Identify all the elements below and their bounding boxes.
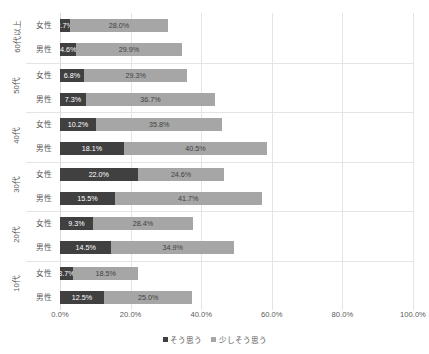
x-axis-tick-label: 20.0% [120,310,142,319]
legend-item[interactable]: そう思う [163,334,203,345]
x-axis-tick-label: 40.0% [190,310,212,319]
bar-segment-agree: 12.5% [60,291,104,304]
gender-label-male: 男性 [36,192,56,205]
age-group-label: 10代 [0,278,30,289]
age-group-label-text: 50代 [9,78,20,94]
bar-row: 12.5%25.0% [60,291,192,304]
gender-label-male: 男性 [36,93,56,106]
x-axis-tick-label: 0.0% [51,310,68,319]
bar-segment-somewhat-agree: 35.8% [96,118,222,131]
bar-segment-agree: 22.0% [60,168,138,181]
bar-row: 15.5%41.7% [60,192,262,205]
bar-segment-agree: 9.3% [60,217,93,230]
bar-segment-agree: 14.5% [60,241,111,254]
gender-label-male: 男性 [36,43,56,56]
bar-segment-agree: 10.2% [60,118,96,131]
bar-segment-agree: 7.3% [60,93,86,106]
chart-legend: そう思う少しそう思う [0,334,429,345]
gender-label-male: 男性 [36,241,56,254]
legend-label: 少しそう思う [219,334,267,345]
legend-swatch-icon [211,337,216,342]
group-separator [26,211,413,212]
group-separator [26,261,413,262]
bar-segment-somewhat-agree: 18.5% [73,267,138,280]
gender-label-female: 女性 [36,19,56,32]
legend-label: そう思う [170,334,202,345]
x-axis-tick-label: 60.0% [261,310,283,319]
bar-segment-agree: 6.8% [60,69,84,82]
bar-segment-agree: 4.6% [60,43,76,56]
x-axis: 0.0%20.0%40.0%60.0%80.0%100.0% [60,310,413,324]
gender-label-female: 女性 [36,118,56,131]
bar-segment-agree: 15.5% [60,192,115,205]
bar-row: 2.7%28.0% [60,19,168,32]
gender-label-female: 女性 [36,69,56,82]
age-group-label-text: 40代 [9,127,20,143]
bar-segment-somewhat-agree: 41.7% [115,192,262,205]
bar-row: 6.8%29.3% [60,69,187,82]
bar-segment-somewhat-agree: 24.6% [138,168,225,181]
bar-segment-somewhat-agree: 29.9% [76,43,182,56]
age-group-label-text: 30代 [9,177,20,193]
bar-row: 18.1%40.5% [60,142,267,155]
bar-row: 14.5%34.9% [60,241,234,254]
bar-row: 10.2%35.8% [60,118,222,131]
age-group-label-text: 20代 [9,226,20,242]
bar-segment-somewhat-agree: 40.5% [124,142,267,155]
bar-segment-somewhat-agree: 25.0% [104,291,192,304]
bar-row: 7.3%36.7% [60,93,215,106]
bar-segment-somewhat-agree: 29.3% [84,69,187,82]
bar-row: 22.0%24.6% [60,168,224,181]
group-separator [26,63,413,64]
x-axis-tick-label: 80.0% [332,310,354,319]
age-group-label: 60代以上 [0,31,30,42]
bar-segment-somewhat-agree: 28.0% [70,19,169,32]
bar-segment-somewhat-agree: 34.9% [111,241,234,254]
stacked-bar-chart: 60代以上50代40代30代20代10代 女性男性女性男性女性男性女性男性女性男… [0,0,429,354]
age-group-label: 40代 [0,130,30,141]
bar-segment-somewhat-agree: 36.7% [86,93,216,106]
legend-swatch-icon [163,337,168,342]
group-separator [26,162,413,163]
age-group-label: 30代 [0,179,30,190]
age-group-label: 50代 [0,80,30,91]
gender-label-female: 女性 [36,168,56,181]
bar-row: 9.3%28.4% [60,217,193,230]
gridline-100.0% [413,13,414,310]
age-group-label-text: 10代 [9,276,20,292]
bar-segment-somewhat-agree: 28.4% [93,217,193,230]
age-group-label: 20代 [0,229,30,240]
group-separator [26,112,413,113]
gender-label-female: 女性 [36,217,56,230]
bar-segment-agree: 18.1% [60,142,124,155]
gender-label-male: 男性 [36,291,56,304]
legend-item[interactable]: 少しそう思う [211,334,267,345]
gender-label-female: 女性 [36,267,56,280]
gender-label-male: 男性 [36,142,56,155]
bar-segment-agree: 3.7% [60,267,73,280]
bar-row: 3.7%18.5% [60,267,138,280]
age-group-label-text: 60代以上 [11,20,22,52]
bar-segment-agree: 2.7% [60,19,70,32]
bar-row: 4.6%29.9% [60,43,182,56]
x-axis-tick-label: 100.0% [400,310,426,319]
